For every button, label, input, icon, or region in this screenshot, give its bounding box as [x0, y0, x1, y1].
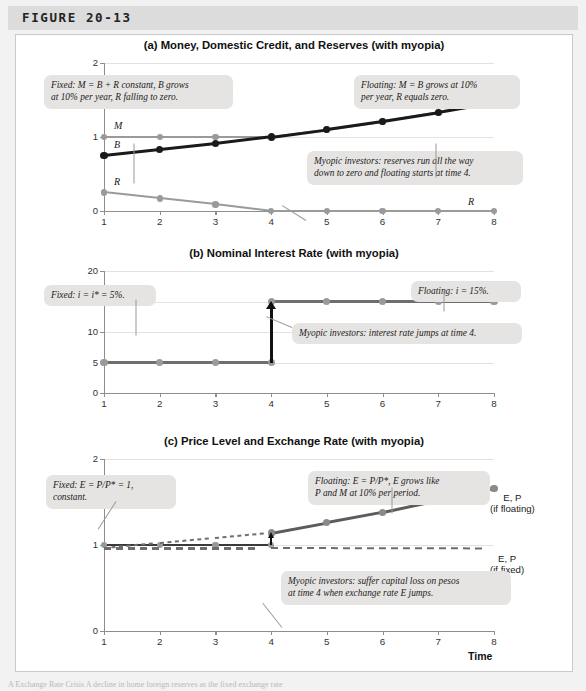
series-segment-EP-if-floating	[327, 511, 383, 524]
ytick-label-b-5: 5	[58, 357, 98, 368]
callout-leader-7	[392, 488, 393, 514]
series-marker-B	[156, 146, 163, 153]
figure-container: FIGURE 20-13 (a) Money, Domestic Credit,…	[0, 0, 586, 691]
series-dash-EP-if-fixed	[331, 547, 338, 549]
series-marker-i-floating	[323, 298, 330, 305]
ytick-label-c-2: 2	[58, 453, 98, 464]
series-dash-EP-if-fixed	[200, 547, 207, 549]
series-dash-EP-if-fixed	[427, 548, 434, 550]
callout-c-fixed: Fixed: E = P/P* = 1, constant.	[46, 475, 176, 509]
series-dash-P-dotted-rising	[182, 540, 186, 543]
xtick-mark-b-7	[438, 393, 439, 397]
series-segment-i-floating	[327, 300, 383, 303]
series-dash-EP-if-fixed	[224, 547, 231, 549]
series-dash-P-dotted-rising	[215, 537, 219, 540]
series-segment-B	[382, 111, 438, 122]
gridline-b-20	[104, 271, 494, 272]
series-dash-P-dotted-rising	[223, 536, 227, 539]
xtick-mark-c-2	[160, 631, 161, 635]
series-dash-P-dotted-rising	[167, 541, 171, 544]
series-dash-EP-if-fixed	[439, 548, 446, 550]
xtick-label-b-3: 3	[205, 398, 225, 409]
series-segment-B	[327, 120, 383, 131]
xtick-label-a-6: 6	[373, 216, 393, 227]
series-segment-R	[383, 210, 439, 212]
series-segment-R	[327, 210, 383, 212]
xtick-label-b-2: 2	[150, 398, 170, 409]
series-dash-P-dotted-rising	[175, 540, 179, 543]
series-dash-P-dotted-rising	[160, 542, 164, 545]
series-dash-EP-if-fixed	[451, 548, 458, 550]
series-dash-EP-if-fixed	[248, 547, 255, 549]
series-dash-P-dotted-rising	[204, 538, 208, 541]
jump-arrow-shaft-b	[270, 307, 273, 363]
xtick-label-a-3: 3	[205, 216, 225, 227]
xtick-label-b-7: 7	[428, 398, 448, 409]
series-dash-EP-if-fixed	[379, 548, 386, 550]
series-segment-i-fixed	[160, 361, 216, 364]
xtick-mark-a-3	[215, 211, 216, 215]
series-segment-R	[438, 210, 494, 212]
ytick-label-b-10: 10	[58, 326, 98, 337]
series-dash-EP-if-fixed	[236, 547, 243, 549]
ytick-label-b-20: 20	[58, 265, 98, 276]
series-label-right-EP-if-floating: E, P (if floating)	[490, 492, 535, 514]
ytick-label-a-2: 2	[58, 57, 98, 68]
series-marker-R	[491, 208, 497, 214]
ytick-label-b-0: 0	[58, 387, 98, 398]
callout-b-fixed: Fixed: i = i* = 5%.	[44, 285, 156, 306]
series-segment-EP-fixed-solid	[215, 544, 271, 546]
series-marker-M	[157, 134, 163, 140]
series-marker-i-fixed	[100, 359, 107, 366]
series-dash-EP-if-fixed	[319, 547, 326, 549]
xtick-label-b-1: 1	[94, 398, 114, 409]
ytick-label-c-1: 1	[58, 539, 98, 550]
series-marker-M	[101, 134, 107, 140]
xtick-mark-b-3	[215, 393, 216, 397]
series-marker-B	[100, 152, 107, 159]
callout-leader-3	[136, 300, 137, 336]
callout-b-floating: Floating: i = 15%.	[411, 281, 521, 302]
figure-header-band: FIGURE 20-13	[8, 6, 578, 30]
callout-c-myopic: Myopic investors: suffer capital loss on…	[281, 571, 511, 605]
x-axis-b	[104, 393, 494, 394]
series-dash-EP-if-fixed	[283, 547, 290, 549]
xtick-label-a-2: 2	[150, 216, 170, 227]
callout-b-myopic: Myopic investors: interest rate jumps at…	[292, 323, 522, 344]
series-dash-P-dotted-rising	[111, 546, 115, 549]
xtick-mark-c-7	[438, 631, 439, 635]
series-dash-P-dotted-rising	[134, 544, 138, 547]
xtick-label-a-1: 1	[94, 216, 114, 227]
xtick-mark-b-8	[494, 393, 495, 397]
series-dash-P-dotted-rising	[238, 534, 242, 537]
xtick-mark-c-5	[327, 631, 328, 635]
series-marker-R	[157, 195, 163, 201]
series-dash-EP-if-fixed	[415, 548, 422, 550]
series-dash-EP-if-fixed	[463, 548, 470, 550]
gridline-c-2	[104, 459, 494, 460]
callout-leader-0	[134, 144, 135, 184]
xtick-mark-c-8	[494, 631, 495, 635]
series-marker-B	[323, 126, 330, 133]
series-segment-M	[160, 136, 216, 138]
series-segment-i-fixed	[215, 361, 271, 364]
series-segment-R	[104, 191, 160, 199]
callout-c-floating: Floating: E = P/P*, E grows like P and M…	[308, 471, 490, 505]
series-dash-EP-if-fixed	[140, 547, 147, 549]
xtick-mark-c-4	[271, 631, 272, 635]
xtick-mark-b-2	[160, 393, 161, 397]
series-segment-R	[271, 210, 327, 212]
callout-leader-1	[436, 144, 437, 178]
series-dash-EP-if-fixed	[271, 547, 278, 549]
xtick-label-a-5: 5	[317, 216, 337, 227]
series-dash-EP-if-fixed	[367, 548, 374, 550]
xtick-mark-c-1	[104, 631, 105, 635]
series-marker-R	[324, 208, 330, 214]
series-dash-EP-if-fixed	[307, 547, 314, 549]
series-dash-EP-if-fixed	[343, 547, 350, 549]
series-dash-EP-if-fixed	[355, 547, 362, 549]
xtick-mark-b-1	[104, 393, 105, 397]
xtick-label-c-6: 6	[373, 636, 393, 647]
series-dash-EP-if-fixed	[403, 548, 410, 550]
series-dash-EP-if-fixed	[164, 547, 171, 549]
